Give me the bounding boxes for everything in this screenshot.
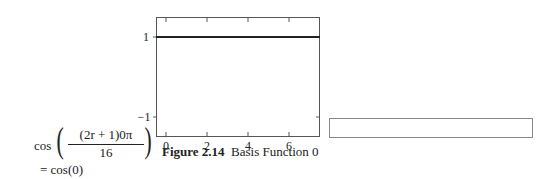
basis-function-plot: 1 −1 0 2 4 6 (156, 17, 320, 137)
empty-box (329, 118, 533, 138)
fraction-denominator: 16 (68, 145, 144, 161)
cosine-equation: cos ( (2r + 1)0π 16 ) = cos(0) (32, 125, 152, 179)
figure-caption: Figure 2.14 Basis Function 0 (162, 144, 319, 160)
figure-title: Basis Function 0 (231, 144, 318, 159)
plot-frame (157, 18, 320, 137)
y-tick-label-1: 1 (143, 30, 149, 44)
y-ticks (153, 37, 320, 117)
left-paren: ( (56, 122, 63, 158)
right-paren: ) (144, 122, 151, 158)
figure-label: Figure 2.14 (162, 144, 225, 159)
equation-result: = cos(0) (40, 162, 83, 178)
x-ticks (166, 17, 289, 137)
fraction-numerator: (2r + 1)0π (68, 127, 144, 145)
fraction: (2r + 1)0π 16 (68, 127, 144, 161)
y-tick-label-neg1: −1 (138, 110, 151, 124)
cos-function-label: cos (34, 138, 51, 154)
